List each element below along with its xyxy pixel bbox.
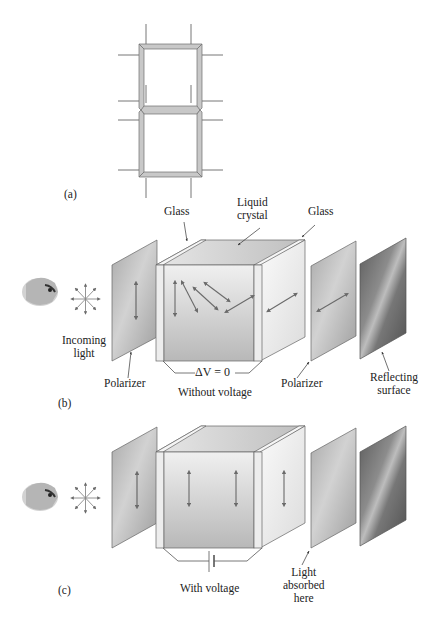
incoming-light-line1: Incoming	[62, 334, 106, 347]
reflecting-surface	[360, 426, 406, 546]
eye-icon	[22, 483, 58, 511]
polarizer-right-label: Polarizer	[281, 377, 323, 390]
reflecting-line2: surface	[370, 384, 418, 397]
lcd-diagram	[0, 0, 447, 625]
polarizer-left-label: Polarizer	[104, 377, 146, 390]
polarizer-left	[112, 240, 157, 361]
without-voltage-caption: Without voltage	[178, 386, 252, 399]
liquid-crystal-line1: Liquid	[237, 196, 268, 209]
panel-c	[22, 426, 406, 572]
glass-right-label: Glass	[308, 205, 334, 218]
liquid-crystal-label: Liquid crystal	[237, 196, 268, 222]
reflecting-line1: Reflecting	[370, 371, 418, 384]
reflecting-surface	[360, 238, 406, 359]
with-voltage-caption: With voltage	[180, 582, 239, 595]
eye-icon	[22, 278, 58, 306]
unpolarized-light-icon	[72, 285, 99, 313]
reflecting-surface-label: Reflecting surface	[370, 371, 418, 397]
liquid-crystal-line2: crystal	[237, 209, 268, 222]
panel-b-label: (b)	[58, 397, 71, 410]
polarizer-right	[311, 241, 356, 361]
battery-icon	[163, 548, 262, 572]
absorbed-line2: absorbed	[283, 579, 325, 592]
absorbed-line1: Light	[283, 566, 325, 579]
liquid-crystal-cell	[156, 240, 305, 361]
light-absorbed-label: Light absorbed here	[283, 566, 325, 605]
liquid-crystal-cell	[156, 426, 305, 548]
polarizer-right	[311, 428, 356, 548]
absorbed-line3: here	[283, 592, 325, 605]
incoming-light-label: Incoming light	[62, 334, 106, 360]
incoming-light-line2: light	[62, 347, 106, 360]
unpolarized-light-icon	[72, 484, 99, 512]
seven-segment-display	[118, 24, 223, 198]
panel-a-label: (a)	[64, 188, 77, 201]
polarizer-left	[112, 427, 157, 548]
panel-c-label: (c)	[58, 584, 71, 597]
glass-left-label: Glass	[164, 205, 190, 218]
delta-v-label: ΔV = 0	[195, 366, 230, 379]
